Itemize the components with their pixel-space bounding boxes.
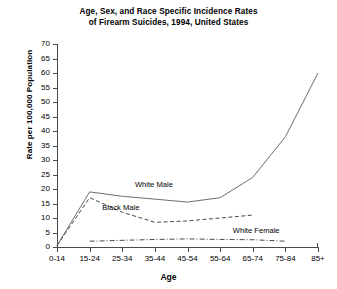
series-label: Black Male — [102, 204, 139, 212]
series-label: White Female — [233, 227, 280, 235]
plot-area — [0, 0, 337, 289]
series-line — [90, 239, 286, 241]
chart-container: Age, Sex, and Race Specific Incidence Ra… — [0, 0, 337, 289]
series-label: White Male — [135, 181, 173, 189]
series-line — [57, 198, 253, 246]
series-line — [57, 73, 318, 246]
